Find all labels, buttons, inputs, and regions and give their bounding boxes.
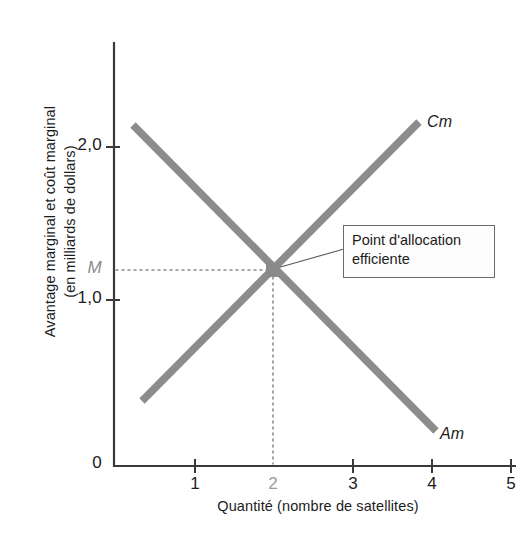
- x-tick-label-4: 4: [417, 474, 447, 494]
- series-label-cm: Cm: [427, 113, 452, 131]
- y-tick-label-0: 0: [40, 453, 102, 473]
- y-axis-title: Avantage marginal et coût marginal (en m…: [41, 22, 80, 422]
- series-line-am: [133, 125, 436, 431]
- y-tick-label-2-0: 2,0: [40, 135, 102, 155]
- x-axis-title: Quantité (nombre de satellites): [113, 498, 523, 514]
- intersection-marker: [266, 263, 280, 277]
- annotation-callout-box: Point d'allocation efficiente: [343, 225, 495, 278]
- y-tick-label-m: M: [40, 258, 102, 278]
- series-label-am: Am: [440, 425, 464, 443]
- x-tick-label-2: 2: [258, 474, 288, 494]
- x-tick-label-1: 1: [180, 474, 210, 494]
- y-tick-label-1-0: 1,0: [40, 288, 102, 308]
- x-tick-label-5: 5: [496, 474, 526, 494]
- x-tick-label-3: 3: [338, 474, 368, 494]
- chart-figure: Avantage marginal et coût marginal (en m…: [0, 0, 532, 537]
